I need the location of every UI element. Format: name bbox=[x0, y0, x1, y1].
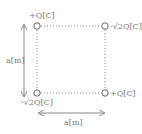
charge-label-top-left: +Q[C] bbox=[29, 11, 55, 20]
square-edges bbox=[37, 26, 105, 93]
dimension-label-vertical: a[m] bbox=[6, 56, 25, 65]
charge-top-right-icon bbox=[102, 23, 108, 29]
charge-label-top-right: -√2Q[C] bbox=[110, 22, 142, 31]
charge-bottom-left-icon bbox=[34, 90, 40, 96]
charge-label-bottom-right: +Q[C] bbox=[110, 89, 136, 98]
charge-label-bottom-left: -√2Q[C] bbox=[21, 98, 53, 107]
charge-square-diagram: +Q[C] -√2Q[C] -√2Q[C] +Q[C] a[m] a[m] bbox=[0, 0, 142, 134]
dimension-label-horizontal: a[m] bbox=[64, 118, 83, 127]
charge-bottom-right-icon bbox=[102, 90, 108, 96]
charge-top-left-icon bbox=[34, 23, 40, 29]
